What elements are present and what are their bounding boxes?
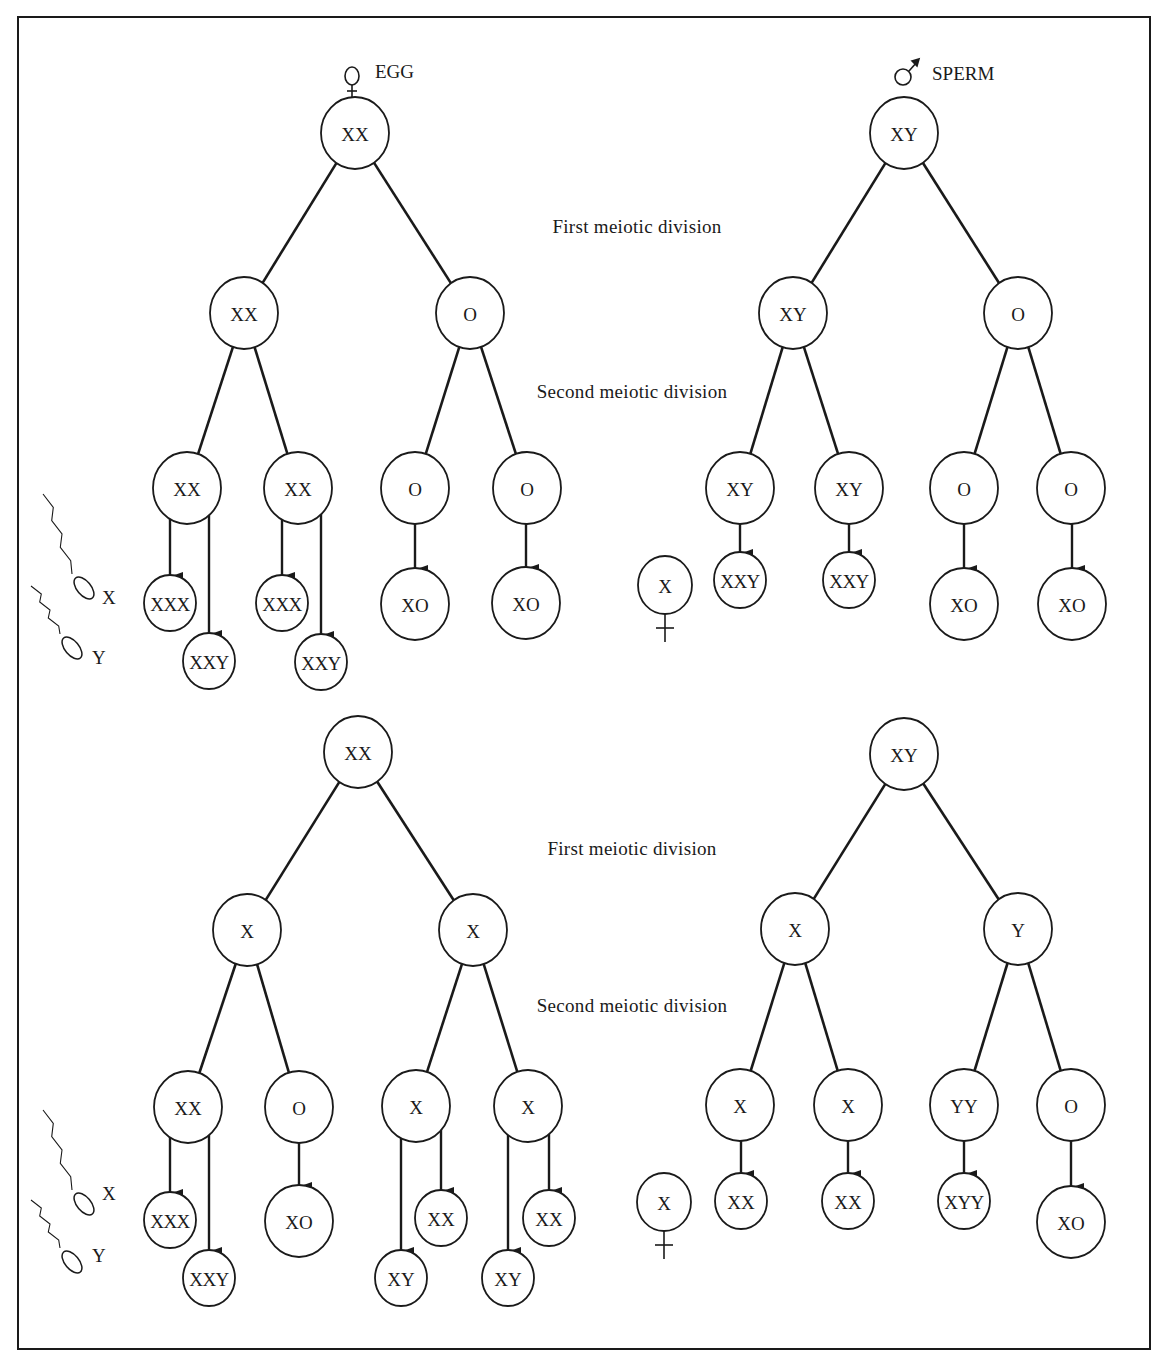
ovum-label: X: [657, 1193, 671, 1214]
chromosome-label: O: [1011, 304, 1025, 325]
cell-node: XXY: [714, 552, 766, 608]
chromosome-label: O: [520, 479, 534, 500]
female-ovum: X: [638, 556, 692, 642]
sperm-type-label: Y: [92, 1245, 106, 1266]
female-ovum: X: [637, 1173, 691, 1259]
division-line: [923, 782, 1000, 900]
cell-node: XX: [715, 1173, 767, 1229]
division-line: [199, 962, 236, 1074]
chromosome-label: XX: [427, 1209, 455, 1230]
division-caption: Second meiotic division: [537, 995, 728, 1016]
division-line: [811, 162, 886, 284]
cell-node: XX: [210, 277, 278, 349]
chromosome-label: XO: [285, 1212, 312, 1233]
sperm-head-icon: [58, 634, 85, 663]
chromosome-label: XX: [834, 1192, 862, 1213]
cell-node: XXY: [183, 633, 235, 689]
division-caption: Second meiotic division: [537, 381, 728, 402]
cell-node: XX: [324, 716, 392, 788]
chromosome-label: O: [1064, 479, 1078, 500]
sperm-label: SPERM: [932, 63, 994, 84]
chromosome-label: XO: [1057, 1213, 1084, 1234]
division-caption: First meiotic division: [552, 216, 721, 237]
cell-node: XO: [265, 1185, 333, 1257]
sperm-type-label: Y: [92, 647, 106, 668]
sperm-x-legend: X: [43, 1110, 116, 1218]
cell-node: Y: [984, 893, 1052, 965]
cell-node: XXX: [144, 1192, 196, 1248]
cell-node: XXY: [823, 552, 875, 608]
division-line: [257, 963, 290, 1075]
sperm-head-icon: [70, 1190, 97, 1219]
sperm-type-label: X: [102, 587, 116, 608]
cell-node: O: [1037, 1069, 1105, 1141]
sperm-tail-icon: [31, 586, 60, 634]
division-line: [1028, 346, 1061, 456]
chromosome-label: XY: [387, 1269, 415, 1290]
chromosome-label: XO: [1058, 595, 1085, 616]
chromosome-label: X: [466, 921, 480, 942]
chromosome-label: XX: [284, 479, 312, 500]
chromosome-label: XXY: [301, 653, 341, 674]
egg-label: EGG: [375, 61, 414, 82]
egg-nondisjunction-second-division: XXXXXXOXXXXXXXYXOXYXXXYXX: [144, 716, 575, 1306]
chromosome-label: XX: [230, 304, 258, 325]
chromosome-label: XYY: [944, 1192, 984, 1213]
chromosome-label: O: [463, 304, 477, 325]
cell-node: XYY: [938, 1173, 990, 1229]
division-line: [198, 345, 234, 455]
cell-node: XO: [381, 568, 449, 640]
division-line: [425, 345, 460, 455]
division-caption: First meiotic division: [547, 838, 716, 859]
cell-node: XX: [153, 452, 221, 524]
chromosome-label: X: [788, 920, 802, 941]
chromosome-label: O: [1064, 1096, 1078, 1117]
chromosome-label: XX: [727, 1192, 755, 1213]
cell-node: XX: [822, 1173, 874, 1229]
sperm-nondisjunction-second-division: XYXYXXYYOXXXXXYYXO: [706, 718, 1105, 1258]
sperm-nondisjunction-first-division: XYXYOXYXYOOXXYXXYXOXO: [706, 97, 1106, 640]
division-line: [750, 346, 783, 456]
division-line: [1028, 962, 1061, 1073]
cell-node: YY: [930, 1069, 998, 1141]
division-line: [262, 162, 337, 284]
division-line: [373, 162, 451, 285]
chromosome-label: XXX: [262, 594, 302, 615]
cell-node: O: [930, 452, 998, 524]
chromosome-label: XXY: [189, 652, 229, 673]
cell-node: XY: [706, 452, 774, 524]
cell-node: XX: [321, 97, 389, 169]
chromosome-label: XO: [950, 595, 977, 616]
cell-node: XY: [759, 277, 827, 349]
chromosome-label: XX: [173, 479, 201, 500]
sperm-y-legend: Y: [31, 586, 106, 668]
cell-node: X: [213, 894, 281, 966]
sperm-tail-icon: [31, 1200, 60, 1248]
division-line: [803, 345, 838, 455]
chromosome-label: XY: [494, 1269, 522, 1290]
cell-node: X: [814, 1069, 882, 1141]
egg-header: EGG: [345, 61, 414, 97]
division-line: [813, 783, 886, 900]
cell-node: X: [706, 1069, 774, 1141]
cell-node: X: [761, 893, 829, 965]
chromosome-label: X: [841, 1096, 855, 1117]
cell-node: XY: [482, 1250, 534, 1306]
meiosis-nondisjunction-diagram: EGG SPERM First meiotic divisionSecond m…: [0, 0, 1166, 1361]
sperm-legend: XYXY: [31, 494, 116, 1276]
chromosome-label: X: [240, 921, 254, 942]
egg-nondisjunction-first-division: XXXXOXXXXOOXXXXXYXXXXXYXOXO: [144, 97, 561, 690]
female-symbol-icon: [345, 67, 359, 97]
division-line: [426, 962, 462, 1073]
chromosome-label: XY: [890, 124, 918, 145]
female-ova: XX: [637, 556, 692, 1259]
chromosome-label: XY: [726, 479, 754, 500]
chromosome-label: YY: [950, 1096, 978, 1117]
sperm-head-icon: [58, 1248, 85, 1277]
chromosome-label: X: [409, 1097, 423, 1118]
cell-node: O: [1037, 452, 1105, 524]
cell-node: XY: [815, 452, 883, 524]
chromosome-label: XX: [535, 1209, 563, 1230]
cell-node: O: [493, 452, 561, 524]
division-line: [805, 962, 838, 1073]
